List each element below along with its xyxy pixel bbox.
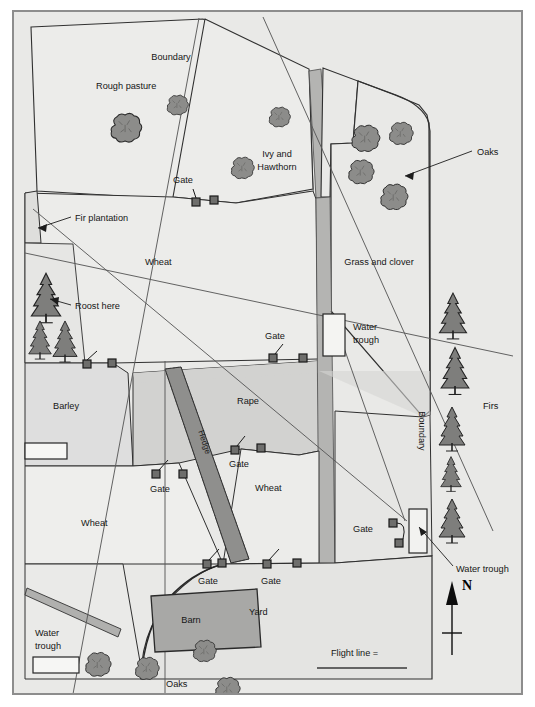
label-oaks-bottom: Oaks [166, 679, 188, 689]
oak-tree-icon [349, 160, 375, 184]
oak-tree-icon [231, 157, 254, 179]
gate-label: Gate [198, 576, 218, 586]
oak-tree-icon [352, 125, 380, 151]
oak-tree-icon [193, 640, 216, 662]
label-water-trough-west-2: trough [35, 641, 61, 651]
oak-tree-icon [381, 184, 408, 210]
label-water-trough-north-1: Water [353, 322, 377, 332]
gate-label: Gate [229, 459, 249, 469]
gate-label: Gate [173, 175, 193, 185]
label-water-trough-west-1: Water [35, 628, 59, 638]
label-water-trough-east: Water trough [456, 564, 509, 574]
flight-line-legend-label: Flight line = [331, 648, 378, 658]
label-boundary-east: Boundary [417, 411, 427, 451]
label-yard: Yard [249, 607, 268, 617]
farm-map-svg: Boundary Rough pasture Ivy and Hawthorn … [13, 11, 522, 694]
label-firs: Firs [483, 401, 499, 411]
label-wheat-south: Wheat [81, 518, 108, 528]
oak-tree-icon [389, 122, 413, 144]
gate-label: Gate [261, 576, 281, 586]
label-rape: Rape [237, 396, 259, 406]
oak-tree-icon [86, 652, 112, 676]
compass-north-label: N [462, 578, 472, 593]
label-roost-here: Roost here [75, 301, 120, 311]
map-frame: Boundary Rough pasture Ivy and Hawthorn … [12, 10, 523, 695]
gate-label: Gate [353, 524, 373, 534]
label-oaks-callout: Oaks [477, 147, 499, 157]
oak-tree-icon [269, 107, 290, 127]
water-trough-west [25, 443, 67, 459]
label-ivy-hawthorn-line1: Ivy and [262, 149, 292, 159]
field-polygons [25, 19, 432, 679]
label-rough-pasture: Rough pasture [96, 81, 156, 91]
label-grass-clover: Grass and clover [344, 257, 413, 267]
water-trough-north [323, 314, 345, 356]
oak-tree-icon [111, 113, 142, 142]
label-barn: Barn [181, 615, 200, 625]
oak-tree-icon [167, 95, 188, 115]
label-water-trough-north-2: trough [353, 335, 379, 345]
label-boundary-north: Boundary [151, 52, 191, 62]
gate-label: Gate [265, 331, 285, 341]
label-fir-plantation: Fir plantation [75, 213, 128, 223]
label-wheat-mid: Wheat [255, 483, 282, 493]
label-barley: Barley [53, 401, 79, 411]
label-wheat-north: Wheat [145, 257, 172, 267]
gate-label: Gate [150, 484, 170, 494]
map-page: Boundary Rough pasture Ivy and Hawthorn … [0, 0, 535, 707]
label-ivy-hawthorn-line2: Hawthorn [257, 162, 296, 172]
water-trough-southwest [33, 657, 79, 673]
oak-tree-icon [135, 657, 159, 679]
